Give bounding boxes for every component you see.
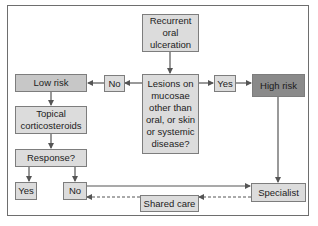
node-response: Response? [15,149,87,167]
node-yes-label: Yes [214,75,236,92]
node-question: Lesions on mucosae other than oral, or s… [142,74,199,154]
node-response-yes: Yes [15,182,37,200]
node-shared-care: Shared care [140,195,199,212]
node-specialist: Specialist [251,183,306,202]
node-treatment: Topical corticosteroids [15,106,87,134]
node-start: Recurrent oral ulceration [142,14,199,52]
node-high-risk: High risk [252,74,305,97]
node-low-risk: Low risk [15,74,87,92]
node-response-no: No [63,182,87,200]
node-no-label: No [104,75,125,92]
